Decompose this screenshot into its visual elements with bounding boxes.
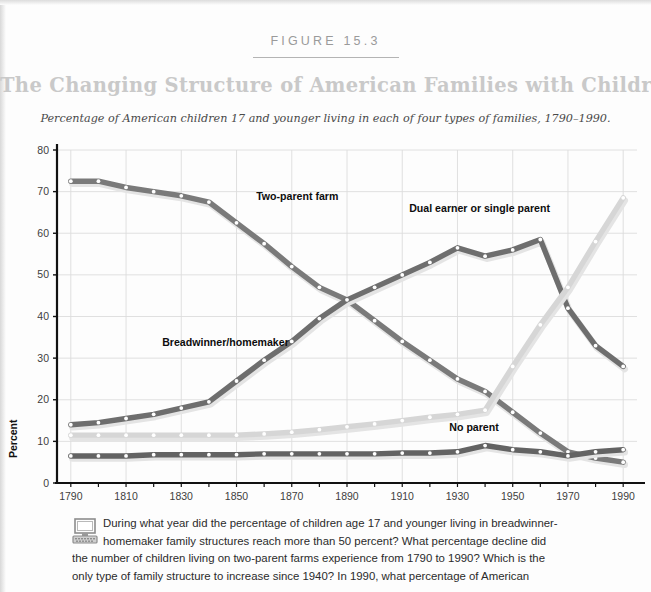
data-point-marker bbox=[456, 450, 460, 454]
caption-line-1: During what year did the percentage of c… bbox=[72, 515, 592, 533]
data-point-marker bbox=[428, 451, 432, 455]
data-point-marker bbox=[621, 460, 625, 464]
data-point-marker bbox=[317, 452, 321, 456]
data-point-marker bbox=[317, 317, 321, 321]
data-point-marker bbox=[207, 200, 211, 204]
page-edge-shadow-top bbox=[0, 0, 651, 5]
data-point-marker bbox=[511, 410, 515, 414]
data-point-marker bbox=[428, 415, 432, 419]
data-point-marker bbox=[538, 431, 542, 435]
data-point-marker bbox=[179, 194, 183, 198]
caption-line-3: the number of children living on two-par… bbox=[72, 550, 592, 568]
data-point-marker bbox=[179, 433, 183, 437]
data-point-marker bbox=[373, 285, 377, 289]
data-point-marker bbox=[262, 452, 266, 456]
data-point-marker bbox=[97, 179, 101, 183]
data-point-marker bbox=[207, 433, 211, 437]
data-point-marker bbox=[124, 417, 128, 421]
data-point-marker bbox=[511, 365, 515, 369]
data-point-marker bbox=[345, 452, 349, 456]
data-point-marker bbox=[124, 433, 128, 437]
data-point-marker bbox=[345, 425, 349, 429]
data-point-marker bbox=[152, 190, 156, 194]
data-point-marker bbox=[373, 422, 377, 426]
x-tick-label: 1890 bbox=[335, 490, 359, 502]
data-point-marker bbox=[179, 453, 183, 457]
data-point-marker bbox=[235, 221, 239, 225]
data-point-marker bbox=[621, 365, 625, 369]
y-tick-label: 70 bbox=[37, 185, 49, 197]
data-point-marker bbox=[511, 248, 515, 252]
data-point-marker bbox=[511, 448, 515, 452]
caption-text: During what year did the percentage of c… bbox=[72, 515, 592, 585]
chart-canvas: 0102030405060708017901810183018501870189… bbox=[0, 138, 651, 506]
caption-line-2: homemaker family structures reach more t… bbox=[72, 533, 592, 551]
figure-header: FIGURE 15.3 bbox=[0, 34, 651, 58]
data-point-marker bbox=[97, 454, 101, 458]
data-point-marker bbox=[400, 419, 404, 423]
data-point-marker bbox=[97, 433, 101, 437]
data-point-marker bbox=[207, 453, 211, 457]
data-point-marker bbox=[400, 340, 404, 344]
data-point-marker bbox=[152, 433, 156, 437]
figure-header-divider bbox=[253, 57, 399, 58]
y-tick-label: 0 bbox=[43, 477, 49, 489]
data-point-marker bbox=[594, 450, 598, 454]
series-label-2: Breadwinner/homemaker bbox=[162, 336, 289, 348]
computer-icon bbox=[72, 517, 98, 547]
data-point-marker bbox=[483, 444, 487, 448]
data-point-marker bbox=[538, 450, 542, 454]
data-point-marker bbox=[124, 186, 128, 190]
caption-line-4: only type of family structure to increas… bbox=[72, 568, 592, 586]
data-point-marker bbox=[373, 452, 377, 456]
data-point-marker bbox=[179, 406, 183, 410]
x-tick-label: 1990 bbox=[612, 490, 636, 502]
data-point-marker bbox=[428, 358, 432, 362]
data-point-marker bbox=[290, 340, 294, 344]
figure-subtitle: Percentage of American children 17 and y… bbox=[0, 112, 651, 125]
data-point-marker bbox=[69, 433, 73, 437]
data-point-marker bbox=[97, 421, 101, 425]
figure-title: The Changing Structure of American Famil… bbox=[0, 74, 651, 97]
x-tick-label: 1950 bbox=[501, 490, 525, 502]
data-point-marker bbox=[262, 432, 266, 436]
data-point-marker bbox=[69, 454, 73, 458]
x-tick-label: 1790 bbox=[59, 490, 83, 502]
data-point-marker bbox=[621, 448, 625, 452]
data-point-marker bbox=[262, 242, 266, 246]
data-point-marker bbox=[262, 358, 266, 362]
data-point-marker bbox=[566, 454, 570, 458]
data-point-marker bbox=[152, 453, 156, 457]
y-axis-title: Percent bbox=[7, 419, 19, 458]
figure-page: FIGURE 15.3 The Changing Structure of Am… bbox=[0, 0, 651, 592]
data-point-marker bbox=[152, 412, 156, 416]
data-point-marker bbox=[621, 196, 625, 200]
data-point-marker bbox=[483, 254, 487, 258]
line-chart: 0102030405060708017901810183018501870189… bbox=[0, 138, 651, 506]
y-tick-label: 80 bbox=[37, 144, 49, 156]
data-point-marker bbox=[566, 285, 570, 289]
x-tick-label: 1850 bbox=[225, 490, 249, 502]
data-point-marker bbox=[373, 319, 377, 323]
data-point-marker bbox=[483, 390, 487, 394]
x-tick-label: 1910 bbox=[391, 490, 415, 502]
data-point-marker bbox=[124, 454, 128, 458]
data-point-marker bbox=[456, 412, 460, 416]
x-tick-label: 1970 bbox=[556, 490, 580, 502]
series-label-1: Two-parent farm bbox=[256, 190, 338, 202]
data-point-marker bbox=[428, 260, 432, 264]
y-tick-label: 20 bbox=[37, 393, 49, 405]
data-point-marker bbox=[400, 451, 404, 455]
data-point-marker bbox=[69, 423, 73, 427]
y-tick-label: 60 bbox=[37, 227, 49, 239]
x-tick-label: 1930 bbox=[446, 490, 470, 502]
series-label-4: No parent bbox=[449, 421, 499, 433]
y-tick-label: 50 bbox=[37, 268, 49, 280]
x-tick-label: 1830 bbox=[170, 490, 194, 502]
data-point-marker bbox=[345, 298, 349, 302]
data-point-marker bbox=[290, 265, 294, 269]
data-point-marker bbox=[483, 408, 487, 412]
y-tick-label: 40 bbox=[37, 310, 49, 322]
figure-number-label: FIGURE 15.3 bbox=[0, 34, 651, 48]
data-point-marker bbox=[538, 238, 542, 242]
